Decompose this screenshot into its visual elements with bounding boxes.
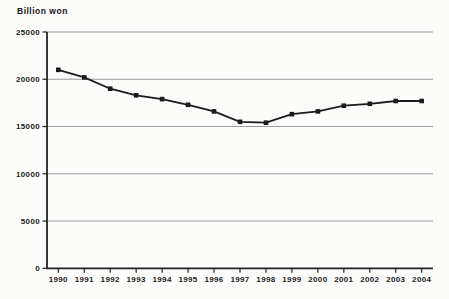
x-tick-label: 1990 (49, 275, 68, 284)
x-tick-label: 2003 (386, 275, 405, 284)
data-point (82, 75, 87, 80)
x-tick-label: 1991 (75, 275, 94, 284)
chart-plot: 0500010000150002000025000199019911992199… (0, 0, 449, 299)
y-tick-label: 20000 (16, 75, 40, 84)
x-tick-label: 1998 (256, 275, 275, 284)
data-point (316, 109, 321, 114)
data-point (368, 102, 373, 107)
data-point (264, 120, 269, 125)
x-tick-label: 1995 (178, 275, 197, 284)
x-tick-label: 1993 (127, 275, 146, 284)
data-point (134, 93, 139, 98)
line-chart: Billion won 0500010000150002000025000199… (0, 0, 449, 299)
y-tick-label: 0 (35, 264, 40, 273)
x-tick-label: 1997 (230, 275, 249, 284)
x-tick-label: 2001 (334, 275, 353, 284)
x-tick-label: 1994 (153, 275, 172, 284)
y-tick-label: 15000 (16, 122, 40, 131)
data-point (186, 103, 191, 108)
data-point (419, 99, 424, 104)
x-tick-label: 2000 (308, 275, 327, 284)
data-point (56, 68, 61, 73)
data-point (342, 103, 347, 108)
y-tick-label: 5000 (21, 217, 40, 226)
data-point (108, 86, 113, 91)
data-line (58, 70, 421, 123)
data-point (393, 99, 398, 104)
data-point (290, 112, 295, 117)
data-point (160, 97, 165, 102)
data-point (212, 109, 217, 114)
x-tick-label: 1999 (282, 275, 301, 284)
y-tick-label: 25000 (16, 28, 40, 37)
y-tick-label: 10000 (16, 170, 40, 179)
x-tick-label: 1992 (101, 275, 120, 284)
x-tick-label: 2004 (412, 275, 431, 284)
x-tick-label: 2002 (360, 275, 379, 284)
data-point (238, 120, 243, 125)
x-tick-label: 1996 (204, 275, 223, 284)
